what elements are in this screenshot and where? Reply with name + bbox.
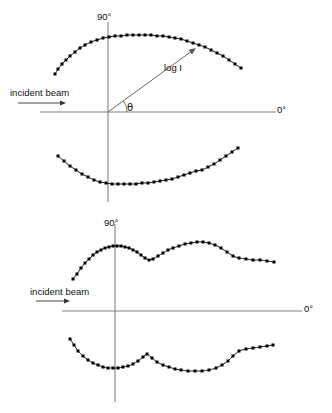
- data-point: [80, 267, 83, 270]
- data-point: [180, 38, 183, 41]
- data-point: [195, 170, 198, 173]
- data-point: [216, 52, 219, 55]
- data-point: [57, 68, 60, 71]
- data-point: [120, 245, 123, 248]
- data-point: [237, 147, 240, 150]
- data-point: [165, 179, 168, 182]
- data-point: [171, 178, 174, 181]
- data-point: [72, 278, 75, 281]
- data-point: [65, 59, 68, 62]
- data-point: [132, 34, 135, 37]
- data-point: [162, 35, 165, 38]
- data-point: [84, 262, 87, 265]
- data-point: [259, 346, 262, 349]
- data-point: [219, 159, 222, 162]
- data-point: [194, 370, 197, 373]
- data-point: [234, 63, 237, 66]
- data-point: [114, 35, 117, 38]
- data-point: [183, 174, 186, 177]
- data-point: [201, 370, 204, 373]
- data-point: [90, 41, 93, 44]
- data-point: [214, 244, 217, 247]
- data-point: [168, 366, 171, 369]
- data-point: [132, 363, 135, 366]
- data-point: [92, 254, 95, 257]
- data-point: [100, 249, 103, 252]
- data-point: [184, 243, 187, 246]
- data-point: [128, 247, 131, 250]
- bottom-axis-label-0: 0°: [304, 304, 313, 314]
- data-point: [162, 252, 165, 255]
- data-point: [162, 364, 165, 367]
- data-point: [178, 245, 181, 248]
- bottom-lower-lobe: [69, 338, 275, 373]
- data-point: [87, 359, 90, 362]
- data-point: [168, 36, 171, 39]
- data-point: [81, 173, 84, 176]
- data-point: [204, 46, 207, 49]
- data-point: [112, 367, 115, 370]
- data-point: [107, 367, 110, 370]
- data-point: [117, 183, 120, 186]
- data-point: [104, 247, 107, 250]
- data-point: [74, 51, 77, 54]
- data-point: [102, 37, 105, 40]
- data-point: [196, 241, 199, 244]
- data-point: [96, 251, 99, 254]
- data-point: [167, 249, 170, 252]
- data-point: [225, 155, 228, 158]
- bottom-incident-beam-label: incident beam: [30, 287, 89, 297]
- data-point: [120, 35, 123, 38]
- data-point: [73, 344, 76, 347]
- top-incident-beam-label: incident beam: [10, 88, 69, 98]
- data-point: [177, 176, 180, 179]
- top-log-intensity-arrowhead: [189, 48, 196, 54]
- data-point: [151, 357, 154, 360]
- data-point: [208, 369, 211, 372]
- data-point: [75, 169, 78, 172]
- data-point: [129, 183, 132, 186]
- data-point: [232, 355, 235, 358]
- data-point: [132, 249, 135, 252]
- data-point: [63, 160, 66, 163]
- data-point: [220, 247, 223, 250]
- data-point: [259, 259, 262, 262]
- data-point: [76, 273, 79, 276]
- data-point: [79, 47, 82, 50]
- top-incident-beam-arrow-head: [60, 100, 66, 105]
- data-point: [240, 67, 243, 70]
- top-log-intensity-vector: [108, 51, 192, 112]
- data-point: [140, 254, 143, 257]
- data-point: [87, 176, 90, 179]
- data-point: [127, 365, 130, 368]
- data-point: [69, 55, 72, 58]
- data-point: [97, 364, 100, 367]
- data-point: [207, 166, 210, 169]
- data-point: [124, 246, 127, 249]
- data-point: [272, 344, 275, 347]
- data-point: [92, 362, 95, 365]
- data-point: [138, 34, 141, 37]
- data-point: [238, 350, 241, 353]
- data-point: [157, 255, 160, 258]
- data-point: [252, 259, 255, 262]
- data-point: [201, 169, 204, 172]
- top-axis-label-0: 0°: [277, 105, 286, 115]
- data-point: [105, 182, 108, 185]
- data-point: [123, 183, 126, 186]
- data-point: [142, 356, 145, 359]
- bottom-incident-beam-arrow-head: [64, 298, 70, 303]
- data-point: [111, 183, 114, 186]
- data-point: [148, 259, 151, 262]
- data-point: [238, 257, 241, 260]
- data-point: [108, 36, 111, 39]
- top-lower-lobe-line: [58, 148, 238, 184]
- data-point: [61, 63, 64, 66]
- top-upper-lobe: [54, 34, 243, 76]
- data-point: [150, 34, 153, 37]
- data-point: [144, 257, 147, 260]
- data-point: [69, 338, 72, 341]
- data-point: [126, 34, 129, 37]
- data-point: [198, 44, 201, 47]
- data-point: [174, 37, 177, 40]
